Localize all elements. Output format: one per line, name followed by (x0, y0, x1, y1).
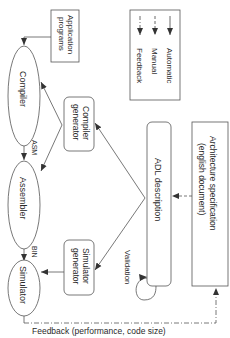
compiler-label: Compiler (18, 71, 28, 107)
legend: Automatic Manual Feedback (130, 10, 180, 100)
compiler-generator-line1: Compiler (81, 106, 91, 140)
legend-manual-label: Manual (150, 48, 159, 74)
legend-feedback-label: Feedback (135, 48, 144, 84)
edge-compgen-to-compiler (41, 82, 62, 125)
application-programs-line2: programs (57, 17, 66, 51)
legend-automatic-label: Automatic (165, 48, 174, 84)
assembler-node: Assembler (8, 161, 40, 249)
adl-description-node: ADL description (147, 122, 171, 286)
application-programs-line1: Application (66, 15, 75, 54)
simulator-generator-line1: Simulator (81, 248, 91, 284)
compiler-node: Compiler (8, 46, 40, 146)
validation-label: Validation (123, 250, 132, 285)
bin-label: BIN (31, 246, 38, 258)
edge-app-to-compiler (24, 37, 51, 45)
edge-adl-to-simgen (95, 198, 145, 270)
simulator-generator-line2: generator (71, 248, 81, 285)
architecture-spec-node: Architecture specification (english docu… (192, 122, 228, 286)
adl-toolchain-diagram: Application programs Compiler ASM Assemb… (0, 0, 230, 338)
simulator-generator-node: Simulator generator (64, 240, 94, 295)
validation-arrowhead (139, 274, 147, 281)
application-programs-node: Application programs (51, 10, 79, 62)
feedback-label: Feedback (performance, code size) (32, 326, 166, 336)
compiler-generator-node: Compiler generator (64, 97, 94, 151)
compiler-generator-line2: generator (71, 104, 81, 141)
assembler-label: Assembler (18, 177, 28, 220)
asm-label: ASM (31, 140, 38, 155)
simulator-node: Simulator (8, 260, 40, 316)
feedback-path (24, 288, 216, 323)
architecture-spec-line1: Architecture specification (208, 136, 218, 231)
simulator-label: Simulator (18, 266, 28, 304)
architecture-spec-line2: (english document) (197, 143, 207, 215)
edge-compgen-to-assembler (41, 125, 62, 171)
adl-description-label: ADL description (153, 158, 163, 221)
edge-adl-to-compgen (95, 123, 145, 198)
